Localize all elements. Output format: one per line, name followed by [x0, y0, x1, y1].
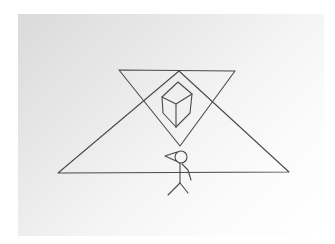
- cube-icon: [162, 82, 192, 127]
- sketch-scene: [0, 0, 335, 244]
- figure-right-leg: [180, 183, 188, 193]
- inverted-triangle: [119, 70, 235, 146]
- cube-left-edge: [162, 97, 176, 127]
- figure-head: [175, 151, 187, 163]
- pencil-drawing: [0, 0, 335, 244]
- figure-left-leg: [168, 183, 180, 195]
- cube-top-face: [162, 82, 192, 104]
